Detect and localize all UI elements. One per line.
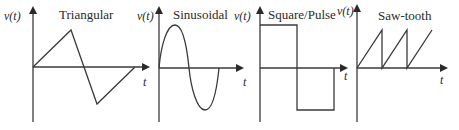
panel-title: Sinusoidal	[173, 7, 228, 22]
x-axis-label: t	[143, 75, 147, 89]
x-axis-label: t	[440, 73, 444, 87]
panel-sawtooth: t v(t) Saw-tooth t	[337, 4, 446, 122]
x-axis-label: t	[344, 69, 348, 83]
y-axis-label: v(t)	[4, 9, 21, 23]
panel-triangular: v(t) Triangular	[4, 7, 148, 122]
panel-square: t v(t) Square/Pulse	[234, 7, 346, 122]
panel-title: Saw-tooth	[378, 8, 432, 23]
sawtooth-wave	[357, 30, 432, 68]
y-axis-label: v(t)	[337, 4, 354, 18]
panel-sinusoidal: t v(t) Sinusoidal	[137, 7, 242, 122]
panel-title: Square/Pulse	[268, 7, 336, 22]
y-axis-label: v(t)	[234, 9, 251, 23]
y-axis-label: v(t)	[137, 9, 154, 23]
x-axis-label: t	[243, 75, 247, 89]
panel-title: Triangular	[59, 7, 114, 22]
